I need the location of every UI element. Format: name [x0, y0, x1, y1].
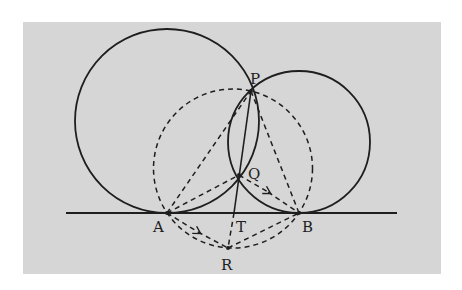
dashed-AR-1: [167, 213, 198, 232]
label-B: B: [302, 218, 313, 236]
dashed-AQ: [167, 175, 239, 213]
label-R: R: [221, 256, 233, 274]
dashed-PB: [251, 91, 299, 213]
geometry-diagram: P Q A T B R: [0, 0, 462, 290]
label-Q: Q: [248, 165, 260, 183]
point-R: [226, 246, 230, 250]
point-Q: [237, 173, 241, 177]
point-A: [165, 211, 169, 215]
point-B: [297, 211, 301, 215]
label-T: T: [236, 218, 246, 236]
point-P: [249, 89, 253, 93]
dashed-TR: [228, 213, 234, 248]
label-P: P: [250, 70, 260, 88]
label-A: A: [152, 218, 164, 236]
